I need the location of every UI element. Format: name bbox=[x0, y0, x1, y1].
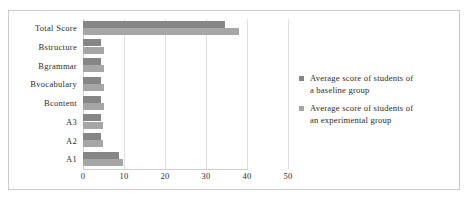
bar-total-score-experimental[interactable] bbox=[83, 28, 239, 35]
legend-label-line1: Average score of students of bbox=[310, 73, 449, 85]
bar-a3-experimental[interactable] bbox=[83, 122, 103, 129]
y-axis-label-bgrammar: Bgrammar bbox=[38, 57, 77, 75]
x-axis-tick-50: 50 bbox=[283, 171, 292, 181]
bar-a2-baseline[interactable] bbox=[83, 133, 101, 140]
bar-a3-baseline[interactable] bbox=[83, 114, 101, 121]
bar-total-score-baseline[interactable] bbox=[83, 21, 225, 28]
bar-group-a3 bbox=[83, 113, 247, 131]
y-axis-label-a2: A2 bbox=[66, 132, 77, 150]
bar-bgrammar-experimental[interactable] bbox=[83, 65, 104, 72]
bar-group-a1 bbox=[83, 150, 247, 168]
bar-a1-baseline[interactable] bbox=[83, 152, 119, 159]
gridline-40 bbox=[247, 19, 248, 169]
bar-bgrammar-baseline[interactable] bbox=[83, 58, 101, 65]
y-axis-label-bvocabulary: Bvocabulary bbox=[30, 75, 77, 93]
x-axis-tick-30: 30 bbox=[201, 171, 210, 181]
legend-label-line2: a baseline group bbox=[310, 85, 449, 97]
legend-swatch-baseline-icon bbox=[299, 76, 304, 81]
bar-group-bstructure bbox=[83, 38, 247, 56]
chart-legend: Average score of students ofa baseline g… bbox=[299, 73, 449, 133]
y-axis-label-a1: A1 bbox=[66, 150, 77, 168]
chart-frame: Total ScoreBstructureBgrammarBvocabulary… bbox=[8, 10, 460, 190]
x-axis-tick-20: 20 bbox=[160, 171, 169, 181]
bar-a2-experimental[interactable] bbox=[83, 140, 103, 147]
y-axis-label-total-score: Total Score bbox=[35, 19, 77, 37]
x-axis-line bbox=[83, 169, 248, 170]
bar-bvocabulary-baseline[interactable] bbox=[83, 77, 101, 84]
x-axis-tick-10: 10 bbox=[119, 171, 128, 181]
bar-group-bvocabulary bbox=[83, 75, 247, 93]
legend-entry-experimental[interactable]: Average score of students ofan experimen… bbox=[299, 103, 449, 126]
bar-bvocabulary-experimental[interactable] bbox=[83, 84, 104, 91]
bar-group-bgrammar bbox=[83, 57, 247, 75]
bar-bstructure-experimental[interactable] bbox=[83, 47, 104, 54]
x-axis-tick-labels: 01020304050 bbox=[83, 171, 293, 187]
y-axis-labels: Total ScoreBstructureBgrammarBvocabulary… bbox=[9, 19, 81, 169]
legend-label-line1: Average score of students of bbox=[310, 103, 449, 115]
legend-label-line2: an experimental group bbox=[310, 115, 449, 127]
gridline-50 bbox=[288, 19, 289, 169]
y-axis-label-a3: A3 bbox=[66, 113, 77, 131]
legend-entry-baseline[interactable]: Average score of students ofa baseline g… bbox=[299, 73, 449, 96]
x-axis-tick-0: 0 bbox=[81, 171, 86, 181]
bar-bstructure-baseline[interactable] bbox=[83, 39, 101, 46]
y-axis-label-bstructure: Bstructure bbox=[39, 38, 77, 56]
x-axis-tick-40: 40 bbox=[242, 171, 251, 181]
bar-bcontent-baseline[interactable] bbox=[83, 96, 101, 103]
y-axis-label-bcontent: Bcontent bbox=[44, 94, 77, 112]
bar-a1-experimental[interactable] bbox=[83, 159, 123, 166]
bar-group-a2 bbox=[83, 132, 247, 150]
plot-area bbox=[83, 19, 247, 169]
bar-group-total-score bbox=[83, 19, 247, 37]
bar-bcontent-experimental[interactable] bbox=[83, 103, 104, 110]
legend-swatch-experimental-icon bbox=[299, 106, 304, 111]
bar-group-bcontent bbox=[83, 94, 247, 112]
